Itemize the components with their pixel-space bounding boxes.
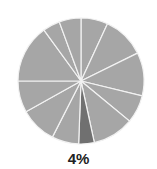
highlight-slice-label: 4% <box>0 150 157 167</box>
pie-chart <box>0 0 157 169</box>
